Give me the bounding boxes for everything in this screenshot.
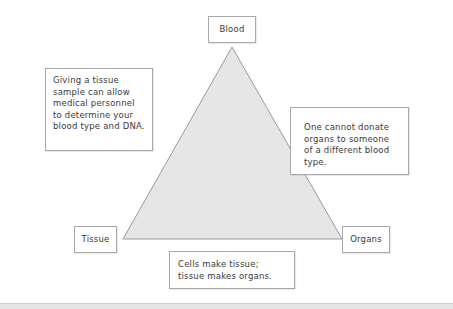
edge-note-left: Giving a tissue sample can allow medical… (45, 68, 153, 151)
bottom-divider (0, 303, 453, 309)
vertex-tissue: Tissue (74, 226, 117, 253)
vertex-organs: Organs (342, 226, 390, 253)
vertex-organs-label: Organs (350, 234, 382, 246)
edge-note-bottom: Cells make tissue; tissue makes organs. (169, 251, 295, 289)
vertex-tissue-label: Tissue (82, 234, 110, 246)
edge-note-right: One cannot donate organs to someone of a… (290, 107, 409, 175)
vertex-blood: Blood (208, 16, 256, 43)
edge-note-bottom-text: Cells make tissue; tissue makes organs. (178, 259, 272, 281)
edge-note-right-text: One cannot donate organs to someone of a… (304, 122, 389, 167)
edge-note-left-text: Giving a tissue sample can allow medical… (53, 75, 145, 131)
vertex-blood-label: Blood (220, 24, 245, 36)
